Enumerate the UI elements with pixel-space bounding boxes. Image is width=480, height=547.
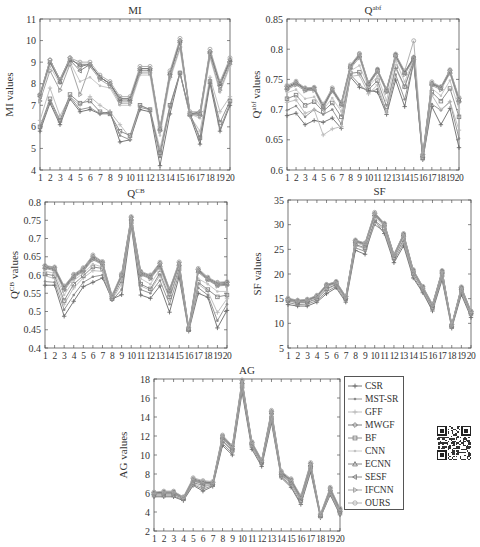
svg-text:9: 9 bbox=[230, 534, 235, 544]
svg-text:9: 9 bbox=[31, 57, 36, 68]
y-axis-label: MI values bbox=[3, 72, 15, 116]
svg-text:15: 15 bbox=[274, 293, 284, 304]
legend-marker-plus-icon bbox=[347, 407, 363, 417]
chart-ag-svg: AG24681012141618123456789101112131415161… bbox=[0, 360, 480, 547]
legend-item-mwgf: MWGF bbox=[347, 418, 403, 431]
svg-text:10: 10 bbox=[274, 318, 284, 329]
svg-text:0.6: 0.6 bbox=[29, 270, 42, 281]
chart-sf: SF51015202530351234567891011121314151617… bbox=[240, 180, 480, 360]
legend-item-gff: GFF bbox=[347, 405, 403, 418]
svg-text:14: 14 bbox=[277, 534, 286, 544]
plot-area bbox=[287, 19, 459, 170]
svg-text:11: 11 bbox=[248, 534, 257, 544]
svg-text:16: 16 bbox=[297, 534, 306, 544]
svg-text:0.65: 0.65 bbox=[24, 251, 42, 262]
svg-text:12: 12 bbox=[258, 534, 267, 544]
qr-code-icon[interactable] bbox=[437, 426, 471, 460]
svg-text:1: 1 bbox=[152, 534, 157, 544]
svg-text:11: 11 bbox=[26, 14, 36, 25]
legend-item-sesf: SESF bbox=[347, 470, 403, 483]
svg-text:0.4: 0.4 bbox=[29, 343, 42, 354]
svg-text:6: 6 bbox=[201, 534, 206, 544]
svg-text:0.8: 0.8 bbox=[271, 44, 284, 55]
svg-text:10: 10 bbox=[140, 450, 150, 461]
svg-text:0.7: 0.7 bbox=[29, 233, 42, 244]
legend-label: GFF bbox=[365, 407, 382, 417]
legend-label: MST-SR bbox=[365, 394, 398, 404]
svg-text:16: 16 bbox=[140, 393, 150, 404]
svg-text:20: 20 bbox=[274, 269, 284, 280]
svg-text:0.6: 0.6 bbox=[271, 165, 284, 176]
chart-mi: MI45678910111234567891011121314151617181… bbox=[0, 0, 240, 190]
y-axis-label: Qabf values bbox=[250, 71, 262, 119]
svg-text:7: 7 bbox=[31, 100, 36, 111]
svg-text:0.65: 0.65 bbox=[266, 134, 284, 145]
y-axis-label: AG values bbox=[117, 432, 129, 479]
y-axis-label: SF values bbox=[251, 252, 263, 295]
legend-marker-dot-icon bbox=[347, 394, 363, 404]
y-axis-label: QCB values bbox=[8, 251, 20, 299]
chart-title: MI bbox=[128, 4, 142, 16]
svg-text:0.5: 0.5 bbox=[29, 306, 42, 317]
chart-ag: AG24681012141618123456789101112131415161… bbox=[0, 360, 480, 547]
svg-text:20: 20 bbox=[336, 534, 345, 544]
svg-text:4: 4 bbox=[31, 165, 36, 176]
svg-text:0.55: 0.55 bbox=[24, 288, 42, 299]
svg-text:6: 6 bbox=[31, 121, 36, 132]
svg-text:4: 4 bbox=[145, 507, 150, 518]
svg-text:5: 5 bbox=[279, 343, 284, 354]
legend-label: IFCNN bbox=[365, 485, 394, 495]
chart-qabf-svg: Qabf0.60.650.70.750.80.85123456789101112… bbox=[240, 0, 480, 190]
legend-marker-dot-icon bbox=[347, 446, 363, 456]
svg-text:5: 5 bbox=[191, 534, 196, 544]
svg-text:2: 2 bbox=[162, 534, 167, 544]
svg-text:5: 5 bbox=[31, 143, 36, 154]
svg-text:3: 3 bbox=[172, 534, 177, 544]
legend-item-bf: BF bbox=[347, 431, 403, 444]
svg-text:0.85: 0.85 bbox=[266, 14, 284, 25]
legend-marker-triangle-icon bbox=[347, 459, 363, 469]
legend-marker-diamond-icon bbox=[347, 420, 363, 430]
legend: CSR MST-SR GFF MWGF BF CNN ECNN SESF IFC… bbox=[344, 376, 404, 510]
legend-marker-diamond-left-icon bbox=[347, 472, 363, 482]
svg-text:6: 6 bbox=[145, 488, 150, 499]
svg-text:2: 2 bbox=[145, 526, 150, 537]
svg-text:15: 15 bbox=[287, 534, 296, 544]
chart-title: AG bbox=[239, 364, 255, 376]
chart-title: SF bbox=[373, 185, 385, 197]
legend-label: MWGF bbox=[365, 420, 395, 430]
svg-text:13: 13 bbox=[267, 534, 276, 544]
svg-text:7: 7 bbox=[211, 534, 216, 544]
legend-item-ours: OURS bbox=[347, 496, 403, 509]
chart-title: Qabf bbox=[365, 4, 383, 16]
chart-title: QCB bbox=[127, 187, 145, 199]
legend-item-cnn: CNN bbox=[347, 444, 403, 457]
svg-text:4: 4 bbox=[181, 534, 186, 544]
svg-text:8: 8 bbox=[31, 78, 36, 89]
svg-text:35: 35 bbox=[274, 195, 284, 206]
svg-text:14: 14 bbox=[140, 412, 150, 423]
legend-label: BF bbox=[365, 433, 377, 443]
legend-item-ifcnn: IFCNN bbox=[347, 483, 403, 496]
svg-text:25: 25 bbox=[274, 244, 284, 255]
svg-text:12: 12 bbox=[140, 431, 150, 442]
legend-label: OURS bbox=[365, 498, 390, 508]
chart-qcb: QCB0.40.450.50.550.60.650.70.750.8123456… bbox=[0, 180, 240, 360]
svg-text:18: 18 bbox=[140, 374, 150, 385]
legend-label: ECNN bbox=[365, 459, 391, 469]
svg-text:10: 10 bbox=[238, 534, 247, 544]
svg-text:10: 10 bbox=[26, 35, 36, 46]
svg-text:0.75: 0.75 bbox=[24, 215, 42, 226]
svg-text:0.45: 0.45 bbox=[24, 324, 42, 335]
svg-text:17: 17 bbox=[306, 534, 315, 544]
legend-item-ecnn: ECNN bbox=[347, 457, 403, 470]
svg-text:0.75: 0.75 bbox=[266, 74, 284, 85]
svg-text:0.8: 0.8 bbox=[29, 197, 42, 208]
chart-qcb-svg: QCB0.40.450.50.550.60.650.70.750.8123456… bbox=[0, 180, 240, 360]
legend-marker-triangle-right-icon bbox=[347, 485, 363, 495]
svg-text:8: 8 bbox=[220, 534, 225, 544]
legend-item-csr: CSR bbox=[347, 379, 403, 392]
legend-label: CSR bbox=[365, 381, 383, 391]
legend-marker-plus-icon bbox=[347, 381, 363, 391]
svg-text:8: 8 bbox=[145, 469, 150, 480]
